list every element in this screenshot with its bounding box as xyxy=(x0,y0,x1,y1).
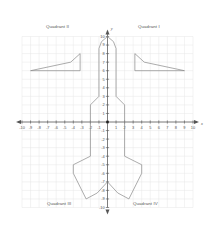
svg-text:2: 2 xyxy=(103,102,105,107)
axis-name-labels: xy xyxy=(110,26,203,127)
svg-text:x: x xyxy=(200,121,203,126)
svg-text:4: 4 xyxy=(141,125,144,130)
svg-text:3: 3 xyxy=(103,94,105,99)
svg-text:5: 5 xyxy=(103,77,105,82)
svg-text:y: y xyxy=(110,26,113,31)
svg-text:9: 9 xyxy=(103,42,105,47)
svg-text:-6: -6 xyxy=(101,171,104,176)
svg-text:-1: -1 xyxy=(97,125,100,130)
svg-text:-9: -9 xyxy=(29,125,32,130)
coordinate-plane-figure: -10-9-8-7-6-5-4-3-2-11234567891010987654… xyxy=(0,0,215,226)
svg-text:6: 6 xyxy=(103,68,105,73)
svg-text:-10: -10 xyxy=(99,205,105,210)
svg-text:8: 8 xyxy=(103,51,105,56)
svg-text:7: 7 xyxy=(103,60,105,65)
svg-text:1: 1 xyxy=(115,125,117,130)
svg-text:10: 10 xyxy=(191,125,196,130)
svg-text:8: 8 xyxy=(175,125,177,130)
quadrant-label-4: Quadrant IV xyxy=(133,201,158,206)
svg-text:-6: -6 xyxy=(54,125,57,130)
svg-text:7: 7 xyxy=(166,125,168,130)
quadrant-label-2: Quadrant II xyxy=(46,24,69,29)
svg-text:-7: -7 xyxy=(46,125,49,130)
svg-text:-10: -10 xyxy=(19,125,25,130)
svg-text:-9: -9 xyxy=(101,196,104,201)
svg-text:-3: -3 xyxy=(101,145,104,150)
svg-text:-4: -4 xyxy=(72,125,76,130)
svg-text:-5: -5 xyxy=(101,162,104,167)
svg-text:6: 6 xyxy=(158,125,160,130)
plot-svg: -10-9-8-7-6-5-4-3-2-11234567891010987654… xyxy=(0,0,215,226)
svg-text:-8: -8 xyxy=(37,125,40,130)
svg-text:-3: -3 xyxy=(80,125,83,130)
svg-text:-5: -5 xyxy=(63,125,66,130)
svg-text:1: 1 xyxy=(103,111,105,116)
svg-text:9: 9 xyxy=(183,125,185,130)
svg-text:3: 3 xyxy=(132,125,134,130)
quadrant-label-1: Quadrant I xyxy=(138,24,160,29)
svg-text:-2: -2 xyxy=(101,137,104,142)
svg-text:5: 5 xyxy=(149,125,151,130)
svg-text:-1: -1 xyxy=(101,128,104,133)
svg-text:-7: -7 xyxy=(101,179,104,184)
quadrant-label-3: Quadrant III xyxy=(47,201,71,206)
